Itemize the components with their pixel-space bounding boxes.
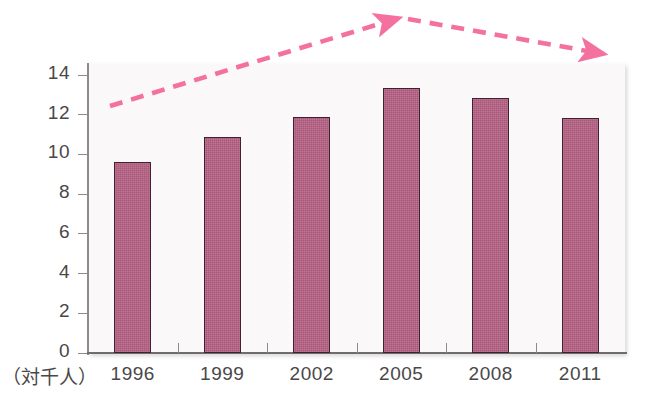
plot-area [88,64,625,354]
y-axis-tick-label: 6 [10,221,70,243]
bar [472,98,509,353]
bar-chart-figure: 02468101214 199619992002200520082011 （対千… [0,0,648,401]
x-axis-tick [178,343,179,353]
y-axis-tick-label: 10 [10,141,70,163]
y-axis-tick-label: 12 [10,102,70,124]
bar [293,117,330,353]
bar [383,88,420,353]
y-axis-tick [78,313,87,314]
x-axis-tick [357,343,358,353]
y-axis-tick [78,154,87,155]
y-axis-tick-label: 4 [10,261,70,283]
x-axis-tick [267,343,268,353]
y-axis-tick [78,273,87,274]
x-axis-tick-label: 2005 [356,363,446,385]
x-axis-tick-label: 2002 [267,363,357,385]
x-axis-tick-label: 1999 [177,363,267,385]
x-axis-tick [536,343,537,353]
y-axis-tick-label: 0 [10,340,70,362]
x-axis-tick-label: 2008 [446,363,536,385]
y-axis-tick-label: 8 [10,181,70,203]
y-axis-tick [78,353,87,354]
bar [114,162,151,353]
y-axis-tick [78,233,87,234]
y-axis-tick-label: 2 [10,300,70,322]
x-axis-tick-label: 1996 [88,363,178,385]
x-axis-tick [446,343,447,353]
falling-trend-arrow-icon [408,19,604,54]
bar [204,137,241,353]
y-axis-tick-label: 14 [10,62,70,84]
x-axis-tick-label: 2011 [535,363,625,385]
y-axis-tick [78,194,87,195]
y-axis-line [87,63,89,355]
y-axis-tick [78,75,87,76]
y-axis-unit-label: （対千人） [2,362,97,389]
y-axis-tick [78,114,87,115]
bar [562,118,599,353]
